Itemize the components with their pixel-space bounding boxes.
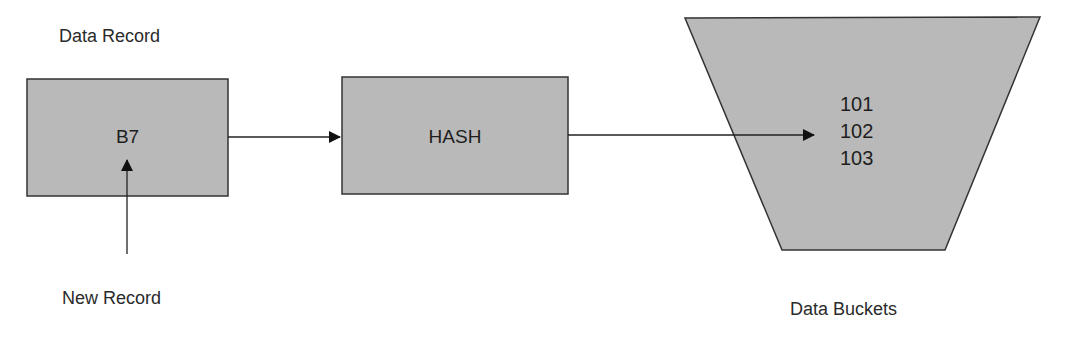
bucket-item: 101	[840, 91, 873, 118]
data-buckets-label: Data Buckets	[790, 299, 897, 320]
new-record-label: New Record	[62, 288, 161, 309]
record-value: B7	[27, 126, 228, 148]
hash-label: HASH	[342, 126, 568, 148]
bucket-item: 102	[840, 118, 873, 145]
data-record-label: Data Record	[59, 26, 160, 47]
bucket-item: 103	[840, 145, 873, 172]
bucket-list: 101 102 103	[840, 91, 873, 172]
